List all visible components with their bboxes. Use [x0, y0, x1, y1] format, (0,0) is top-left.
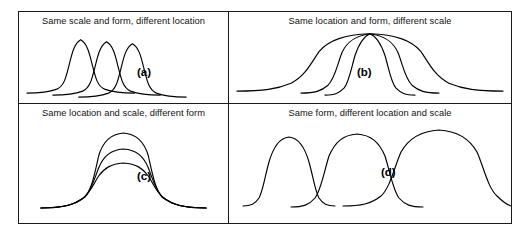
panel-a-tag: (a)	[137, 66, 151, 78]
panel-c-curve-1	[41, 133, 206, 208]
panel-c-curve-2	[41, 149, 206, 208]
panel-d-curves	[229, 104, 511, 223]
panel-d: Same form, different location and scale …	[229, 104, 511, 223]
panel-a-caption: Same scale and form, different location	[19, 16, 228, 27]
panel-c-curve-3	[41, 163, 206, 208]
panel-c-tag: (c)	[137, 170, 151, 182]
panel-d-curve-3	[343, 130, 511, 206]
panel-c: Same location and scale, different form …	[19, 104, 229, 223]
panel-b-curve-2	[301, 34, 439, 93]
panel-c-curves	[19, 104, 228, 223]
panel-grid: Same scale and form, different location …	[18, 11, 512, 224]
figure-root: Same scale and form, different location …	[0, 0, 528, 236]
panel-d-curve-1	[243, 137, 335, 206]
panel-d-caption: Same form, different location and scale	[229, 108, 511, 119]
panel-a: Same scale and form, different location …	[19, 12, 229, 104]
panel-a-curve-3	[79, 44, 186, 97]
panel-b-tag: (b)	[357, 66, 372, 78]
panel-b-caption: Same location and form, different scale	[229, 16, 511, 27]
panel-b: Same location and form, different scale …	[229, 12, 511, 104]
panel-c-caption: Same location and scale, different form	[19, 108, 228, 119]
panel-b-curve-3	[237, 34, 503, 91]
panel-d-tag: (d)	[381, 166, 396, 178]
